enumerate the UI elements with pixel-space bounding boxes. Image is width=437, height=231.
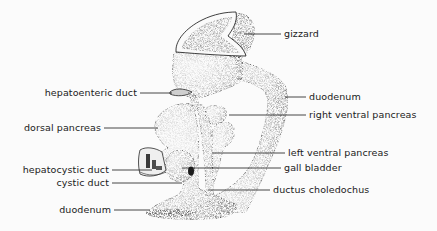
label-cystic-duct: cystic duct xyxy=(56,177,109,188)
gall-bladder-shape xyxy=(165,150,195,182)
label-left-ventral-pancreas: left ventral pancreas xyxy=(288,147,389,158)
label-dorsal-pancreas: dorsal pancreas xyxy=(24,122,101,133)
label-right-ventral-pancreas: right ventral pancreas xyxy=(309,109,417,120)
label-duodenum-lower: duodenum xyxy=(59,204,111,215)
right-ventral-pancreas-shape xyxy=(205,105,226,124)
label-duodenum-upper: duodenum xyxy=(309,91,361,102)
label-hepatocystic-duct: hepatocystic duct xyxy=(23,164,109,175)
label-gall-bladder: gall bladder xyxy=(284,162,342,173)
anatomical-diagram: gizzard duodenum right ventral pancreas … xyxy=(0,0,437,231)
gizzard-body xyxy=(173,12,255,98)
label-hepatoenteric-duct: hepatoenteric duct xyxy=(45,87,137,98)
label-ductus-choledochus: ductus choledochus xyxy=(273,184,369,195)
label-gizzard: gizzard xyxy=(284,28,319,39)
hepatocystic-duct-shape xyxy=(139,148,167,176)
